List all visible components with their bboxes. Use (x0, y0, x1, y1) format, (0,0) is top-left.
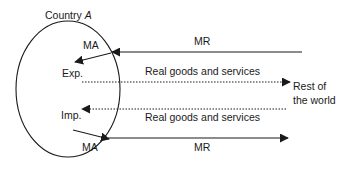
mr-top-label: MR (194, 35, 211, 47)
mr-bottom-label: MR (194, 141, 211, 153)
imp-label: Imp. (61, 109, 81, 121)
country-a-boundary (16, 21, 120, 157)
ma-to-exp-arrow (75, 53, 111, 62)
ma-top-label: MA (83, 39, 99, 51)
country-a-label: Country A (45, 9, 92, 21)
exp-label: Exp. (62, 67, 83, 79)
money-goods-flow-diagram: Country A MR MA Exp. Real goods and serv… (0, 0, 352, 170)
rest-of-world-label-line2: the world (293, 94, 336, 106)
goods-top-label: Real goods and services (145, 65, 260, 77)
goods-bottom-label: Real goods and services (145, 111, 260, 123)
rest-of-world-label-line1: Rest of (293, 80, 326, 92)
imp-to-ma-arrow (73, 130, 109, 139)
ma-bottom-label: MA (82, 141, 98, 153)
